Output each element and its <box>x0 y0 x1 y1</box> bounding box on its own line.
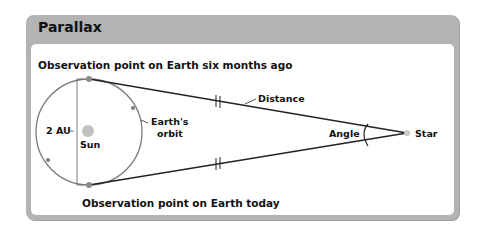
label-baseline: 2 AU <box>46 125 71 136</box>
label-orbit-2: orbit <box>157 128 183 139</box>
label-orbit-1: Earth's <box>151 116 189 127</box>
label-bottom-point: Observation point on Earth today <box>82 197 280 209</box>
label-distance: Distance <box>258 93 305 104</box>
label-star: Star <box>415 128 438 139</box>
label-sun: Sun <box>80 139 101 150</box>
sun-icon <box>82 125 94 137</box>
sight-line-bottom <box>89 133 407 185</box>
angle-arc <box>364 124 368 146</box>
sight-line-top <box>89 79 407 133</box>
orbit-arrow-icon <box>131 106 135 110</box>
earth-point-past <box>86 76 92 82</box>
orbit-arrow-icon <box>46 158 50 162</box>
label-angle: Angle <box>329 128 360 139</box>
parallax-diagram: Observation point on Earth six months ag… <box>0 0 485 237</box>
earth-point-today <box>86 182 92 188</box>
star-icon <box>404 130 410 136</box>
label-top-point: Observation point on Earth six months ag… <box>38 59 292 71</box>
